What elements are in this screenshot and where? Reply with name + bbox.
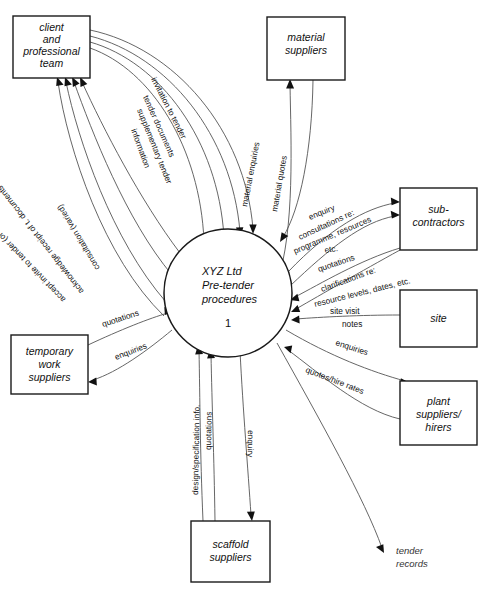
- entity-site-label-1: site: [430, 312, 447, 324]
- entity-plant-label-1: plant: [426, 395, 451, 407]
- flow-label-enquiries-temp: enquiries: [113, 340, 148, 361]
- flow-consultations-re-arrow: [391, 211, 400, 219]
- entity-client-label-1: client: [39, 21, 65, 33]
- flow-label-material-enquiries: material enquiries: [239, 141, 261, 207]
- entity-client-label-4: team: [40, 57, 64, 69]
- entity-temporary-work-label-1: temporary: [26, 345, 74, 357]
- dfd-canvas: client and professional team material su…: [0, 0, 484, 592]
- flow-label-quotations-sub: quotations: [316, 252, 355, 274]
- entity-temporary-work-label-2: work: [38, 358, 61, 370]
- flow-label-site-visit: site visit: [330, 306, 360, 316]
- flow-label-notes: notes: [342, 319, 362, 329]
- flow-label-enquiry-scaffold: enquiry: [246, 430, 256, 458]
- entity-plant-label-3: hirers: [425, 421, 452, 433]
- dfd-svg: client and professional team material su…: [0, 0, 484, 592]
- flow-label-etc: etc.: [324, 243, 339, 255]
- entity-temporary-work-label-3: suppliers: [28, 371, 71, 383]
- flow-information-line: [90, 48, 204, 241]
- entity-subcontractors-label-1: sub-: [428, 203, 449, 215]
- flow-clarifications-re-arrow: [291, 305, 300, 312]
- flow-label-quotes-hire-rates: quotes/hire rates: [304, 365, 365, 396]
- flow-label-quotations-scaffold: quotations: [203, 412, 214, 450]
- flow-tender-records-arrow: [376, 544, 384, 553]
- entity-material-suppliers-label-2: suppliers: [285, 44, 328, 56]
- entity-tender-records-label-2: records: [396, 558, 428, 569]
- process-label-3: procedures: [201, 293, 258, 305]
- flow-label-enquiries-plant: enquiries: [334, 337, 369, 357]
- entity-plant-label-2: suppliers/: [416, 408, 462, 420]
- flow-enquiry-sub-arrow: [391, 197, 400, 205]
- entity-client-label-2: and: [43, 33, 62, 45]
- entity-tender-records-label-1: tender: [396, 545, 424, 556]
- flow-label-material-quotes: material quotes: [269, 155, 289, 213]
- entity-scaffold-label-2: suppliers: [209, 551, 252, 563]
- process-label-2: Pre-tender: [202, 279, 255, 291]
- process-number: 1: [225, 317, 231, 329]
- flow-label-design-spec-info: design/specification info.: [190, 404, 202, 495]
- flow-enquiry-scaffold-arrow: [247, 511, 255, 521]
- entity-subcontractors-label-2: contractors: [413, 216, 466, 228]
- flow-enquiries-temp-arrow: [88, 378, 97, 386]
- process-label-1: XYZ Ltd: [201, 265, 243, 277]
- entity-client-label-3: professional: [22, 45, 80, 57]
- flow-label-quotations-temp: quotations: [101, 308, 141, 329]
- entity-scaffold-label-1: scaffold: [212, 538, 249, 550]
- entity-material-suppliers-label-1: material: [287, 31, 325, 43]
- flow-site-visit-notes-arrow: [291, 316, 300, 324]
